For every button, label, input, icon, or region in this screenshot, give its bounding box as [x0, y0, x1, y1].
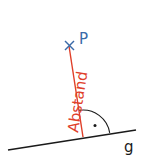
distance-diagram: P Abstand g [0, 0, 161, 166]
line-g-label: g [124, 138, 134, 156]
right-angle-dot [94, 124, 97, 127]
point-p-label: P [79, 30, 88, 48]
distance-label: Abstand [64, 70, 91, 134]
